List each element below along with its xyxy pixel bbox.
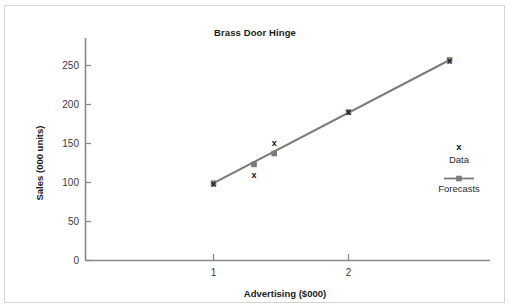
data-point-marker-2: x xyxy=(251,170,256,180)
plot-area: 0 50 100 150 200 250 1 2 Advertising ($0… xyxy=(0,0,510,308)
legend-label-data: Data xyxy=(449,154,470,165)
x-axis-title: Advertising ($000) xyxy=(244,288,326,299)
data-point-marker-3: x xyxy=(272,138,277,148)
forecast-marker-2 xyxy=(251,162,257,168)
y-tick-label-50: 50 xyxy=(68,216,80,227)
legend-entry-forecasts[interactable]: Forecasts xyxy=(438,176,480,194)
y-tick-label-150: 150 xyxy=(62,138,79,149)
series-forecasts xyxy=(211,57,453,186)
forecast-marker-3 xyxy=(271,151,277,157)
legend-label-forecasts: Forecasts xyxy=(438,183,480,194)
x-marker-icon: x xyxy=(456,141,462,152)
x-axis-tick-labels: 1 2 xyxy=(211,267,352,278)
data-point-marker-1: x xyxy=(211,179,216,189)
y-axis-tick-labels: 0 50 100 150 200 250 xyxy=(62,60,79,266)
chart-figure: Brass Door Hinge 0 50 100 150 200 250 xyxy=(0,0,510,308)
x-tick-label-2: 2 xyxy=(346,267,352,278)
y-tick-label-100: 100 xyxy=(62,177,79,188)
data-point-marker-4: x xyxy=(346,107,351,117)
y-tick-label-0: 0 xyxy=(73,255,79,266)
y-axis-title: Sales (000 units) xyxy=(34,126,45,201)
legend-square-marker xyxy=(456,176,462,182)
line-marker-icon xyxy=(444,176,474,182)
x-tick-label-1: 1 xyxy=(211,267,217,278)
data-point-marker-5: x xyxy=(447,56,452,66)
chart-legend: x Data Forecasts xyxy=(438,141,480,194)
forecast-line xyxy=(214,60,450,183)
y-tick-label-200: 200 xyxy=(62,99,79,110)
y-axis-ticks xyxy=(86,66,92,261)
x-axis-ticks xyxy=(214,254,349,261)
y-tick-label-250: 250 xyxy=(62,60,79,71)
legend-entry-data[interactable]: x Data xyxy=(449,141,470,165)
